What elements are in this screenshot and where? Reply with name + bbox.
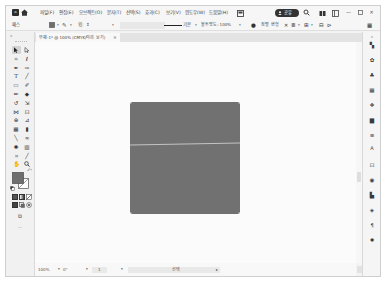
menu-object[interactable]: 오브젝트(O) bbox=[79, 6, 102, 19]
arrange-documents-icon[interactable] bbox=[237, 10, 244, 17]
stroke-color-icon[interactable]: ✎ bbox=[62, 19, 67, 31]
pencil-tool[interactable]: ✏ bbox=[12, 90, 21, 98]
eyedropper-tool[interactable]: ╲ bbox=[12, 134, 21, 142]
curvature-tool[interactable]: ✑ bbox=[23, 64, 32, 72]
blend-tool[interactable]: ∞ bbox=[23, 134, 32, 142]
rotate-tool[interactable]: ↺ bbox=[12, 99, 21, 107]
status-menu-arrow[interactable]: ▸ bbox=[216, 263, 218, 276]
minimize-button[interactable]: — bbox=[344, 6, 353, 19]
shape-builder-tool[interactable]: ⊕ bbox=[12, 116, 21, 124]
hand-tool[interactable]: ✋ bbox=[12, 160, 21, 168]
vertical-align-icon[interactable]: ⊞ bbox=[304, 19, 309, 31]
brushes-panel-icon[interactable]: ❖ bbox=[366, 101, 378, 109]
color-mode-button[interactable] bbox=[12, 194, 18, 200]
lasso-tool[interactable]: ℓ bbox=[23, 55, 32, 63]
menu-window[interactable]: 윈도우(W) bbox=[185, 6, 205, 19]
artboard-number[interactable]: 1 bbox=[98, 267, 101, 273]
collapse-toolbar-button[interactable]: « bbox=[10, 33, 12, 39]
horizontal-align-dropdown[interactable]: ▾ bbox=[298, 19, 300, 31]
appearance-panel-icon[interactable]: ◉ bbox=[366, 176, 378, 184]
distribute-icon[interactable]: ⊟ bbox=[319, 19, 324, 31]
slice-tool[interactable]: ╱ bbox=[23, 152, 32, 160]
corner-handle-br[interactable] bbox=[239, 213, 241, 215]
stroke-panel-icon[interactable]: ≡ bbox=[366, 131, 378, 139]
libraries-panel-icon[interactable]: ✿ bbox=[366, 56, 378, 64]
corner-handle-bl[interactable] bbox=[130, 213, 132, 215]
horizontal-align-icon[interactable]: ≣ bbox=[291, 19, 296, 31]
discover-icon[interactable] bbox=[319, 10, 326, 17]
canvas[interactable] bbox=[35, 42, 356, 263]
close-document-button[interactable]: × bbox=[113, 33, 117, 42]
perspective-grid-tool[interactable]: ⊿ bbox=[23, 116, 32, 124]
menu-view[interactable]: 보기(V) bbox=[166, 6, 181, 19]
artboard-navigation[interactable]: 1 bbox=[92, 267, 107, 273]
rotation-dropdown[interactable]: ▾ bbox=[86, 263, 88, 276]
collapse-dock-button[interactable]: » bbox=[366, 33, 378, 41]
swatches-panel-icon[interactable]: ▦ bbox=[366, 86, 378, 94]
share-button[interactable]: 공유 bbox=[275, 9, 299, 17]
magic-wand-tool[interactable]: ✧ bbox=[12, 55, 21, 63]
gradient-mode-button[interactable] bbox=[19, 194, 25, 200]
workspace-icon[interactable] bbox=[332, 10, 339, 17]
artboard-tool[interactable]: ⌗ bbox=[12, 152, 21, 160]
status-field[interactable]: 선택 bbox=[128, 267, 220, 273]
align-to-icon[interactable]: ⊳ bbox=[327, 19, 332, 31]
scale-tool[interactable]: ⇲ bbox=[23, 99, 32, 107]
line-segment-tool[interactable]: ╱ bbox=[23, 72, 32, 80]
stroke-weight-dropdown[interactable]: ▾ bbox=[112, 19, 114, 31]
direct-selection-tool[interactable] bbox=[23, 46, 32, 54]
vertical-align-dropdown[interactable]: ▾ bbox=[311, 19, 313, 31]
menu-select[interactable]: 선택(S) bbox=[126, 6, 141, 19]
color-panel-icon[interactable]: ✹ bbox=[366, 236, 378, 244]
artboard-dropdown[interactable]: ▾ bbox=[121, 263, 123, 276]
rotation-value[interactable]: 0° bbox=[63, 263, 68, 276]
free-transform-tool[interactable]: ⊡ bbox=[23, 108, 32, 116]
gradient-tool[interactable]: ▮ bbox=[23, 125, 32, 133]
draw-behind-button[interactable] bbox=[19, 202, 25, 208]
recolor-artwork-icon[interactable]: ● bbox=[251, 19, 256, 31]
variable-width-profile-field[interactable] bbox=[120, 22, 165, 29]
menu-type[interactable]: 문자(T) bbox=[107, 6, 121, 19]
default-fill-stroke-icon[interactable] bbox=[10, 186, 15, 191]
stroke-weight-stepper[interactable]: ⇕ bbox=[86, 19, 90, 31]
menu-help[interactable]: 도움말(H) bbox=[209, 6, 228, 19]
zoom-level[interactable]: 100% bbox=[38, 263, 49, 276]
align-panel-icon[interactable]: ▙ bbox=[366, 191, 378, 199]
rectangle-tool[interactable]: ▭ bbox=[12, 81, 21, 89]
align-link[interactable]: 정렬 bbox=[261, 19, 269, 31]
close-button[interactable]: ✕ bbox=[367, 6, 376, 19]
column-graph-tool[interactable]: ▥ bbox=[23, 143, 32, 151]
brush-definition[interactable]: 기본 bbox=[183, 19, 191, 31]
edit-toolbar-button[interactable]: ··· bbox=[14, 225, 26, 230]
character-panel-icon[interactable]: A bbox=[366, 144, 378, 152]
fill-dropdown[interactable]: ▾ bbox=[57, 19, 59, 31]
fill-swatch-large[interactable] bbox=[12, 172, 24, 184]
screen-mode-button[interactable]: ⧉ bbox=[15, 213, 25, 220]
type-tool[interactable]: T bbox=[12, 72, 21, 80]
vertical-scrollbar-thumb[interactable] bbox=[357, 172, 361, 182]
opacity-field[interactable]: 불투명도: 100% bbox=[201, 19, 231, 31]
swap-fill-stroke-icon[interactable]: ⤺ bbox=[27, 167, 32, 172]
paragraph-panel-icon[interactable]: ¶ bbox=[366, 221, 378, 229]
search-icon[interactable] bbox=[303, 9, 310, 16]
fill-swatch[interactable] bbox=[49, 22, 55, 28]
symbol-sprayer-tool[interactable]: ✺ bbox=[12, 143, 21, 151]
corner-handle-tr[interactable] bbox=[239, 102, 241, 104]
zoom-dropdown[interactable]: ▾ bbox=[58, 263, 60, 276]
properties-panel-icon[interactable]: ▚ bbox=[366, 41, 378, 49]
layers-panel-icon[interactable]: ◈ bbox=[366, 206, 378, 214]
selection-tool[interactable] bbox=[12, 46, 21, 54]
brush-dropdown[interactable]: ▾ bbox=[195, 19, 197, 31]
toolbar-grip[interactable] bbox=[15, 41, 27, 42]
paintbrush-tool[interactable]: ✐ bbox=[23, 81, 32, 89]
transform-link[interactable]: 변형 bbox=[271, 19, 279, 31]
width-tool[interactable]: ⋈ bbox=[12, 108, 21, 116]
panel-menu-icon[interactable]: ▦ bbox=[367, 19, 372, 31]
isolate-icon[interactable]: ✕ bbox=[284, 19, 288, 31]
menu-file[interactable]: 파일(F) bbox=[40, 6, 54, 19]
brush-stroke-preview[interactable] bbox=[164, 25, 182, 26]
opacity-dropdown[interactable]: ▾ bbox=[239, 19, 241, 31]
draw-inside-button[interactable] bbox=[26, 202, 32, 208]
gradient-panel-icon[interactable]: ▆ bbox=[366, 116, 378, 124]
home-icon[interactable] bbox=[21, 9, 28, 16]
